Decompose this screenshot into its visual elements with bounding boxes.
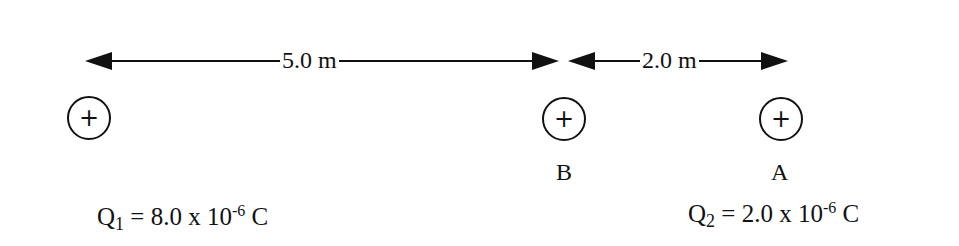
- point-label-a: A: [771, 160, 788, 184]
- charge-q1-value: Q1 = 8.0 x 10-6 C: [97, 203, 268, 233]
- point-label-b: B: [556, 160, 572, 184]
- charge-a-plus-icon: +: [759, 97, 803, 141]
- charge-q1-plus-icon: +: [67, 96, 111, 140]
- point-b-plus-icon: +: [542, 97, 586, 141]
- distance-label-5m: 5.0 m: [280, 48, 339, 72]
- charge-q2-value: Q2 = 2.0 x 10-6 C: [688, 200, 859, 230]
- distance-label-2m: 2.0 m: [640, 48, 699, 72]
